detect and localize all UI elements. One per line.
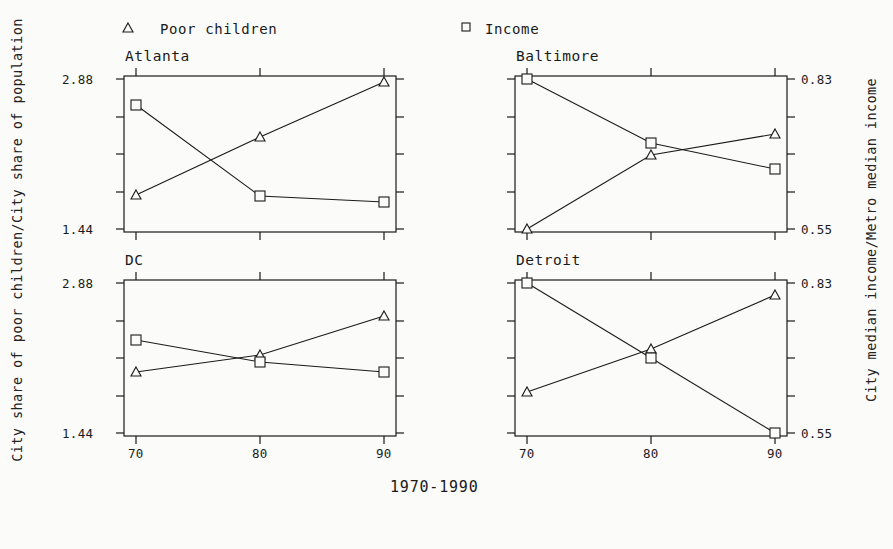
data-point-marker (522, 224, 532, 233)
y-tick-label-top-atlanta: 2.88 (62, 72, 93, 87)
square-marker-icon (462, 23, 470, 31)
triangle-marker-icon (123, 23, 133, 32)
data-point-marker (379, 197, 389, 207)
data-point-marker (379, 367, 389, 377)
data-point-marker (770, 164, 780, 174)
data-point-marker (770, 129, 780, 138)
x-tick-label-70-dc: 70 (128, 446, 144, 461)
x-tick-label-90-dc: 90 (376, 446, 392, 461)
panel-title-dc: DC (125, 252, 143, 268)
data-point-marker (131, 100, 141, 110)
legend-label-income: Income (485, 21, 539, 37)
data-point-marker (646, 138, 656, 148)
data-point-marker (255, 357, 265, 367)
figure-container: City share of poor children/City share o… (0, 0, 893, 549)
data-point-marker (379, 77, 389, 86)
x-tick-label-70-detroit: 70 (519, 446, 535, 461)
figure-svg (0, 0, 893, 549)
panel-dc (116, 272, 404, 444)
y-tick-label-bottom-dc: 1.44 (62, 426, 93, 441)
panel-title-atlanta: Atlanta (125, 48, 190, 64)
panel-detroit (507, 272, 795, 444)
data-point-marker (522, 278, 532, 288)
x-tick-label-80-dc: 80 (252, 446, 268, 461)
panel-atlanta (116, 68, 404, 240)
data-point-marker (379, 311, 389, 320)
data-point-marker (646, 353, 656, 363)
panel-title-detroit: Detroit (516, 252, 581, 268)
panel-title-baltimore: Baltimore (516, 48, 599, 64)
data-point-marker (131, 335, 141, 345)
data-point-marker (255, 191, 265, 201)
data-point-marker (646, 344, 656, 353)
y-tick-label-bottom-baltimore: 0.55 (801, 222, 832, 237)
x-tick-label-90-detroit: 90 (767, 446, 783, 461)
x-tick-label-80-detroit: 80 (643, 446, 659, 461)
x-axis-title: 1970-1990 (390, 478, 478, 496)
y-tick-label-bottom-detroit: 0.55 (801, 426, 832, 441)
y-tick-label-top-baltimore: 0.83 (801, 72, 832, 87)
legend-label-poor-children: Poor children (160, 21, 277, 37)
panel-baltimore (507, 68, 795, 240)
y-tick-label-bottom-atlanta: 1.44 (62, 222, 93, 237)
y-tick-label-top-dc: 2.88 (62, 276, 93, 291)
y-tick-label-top-detroit: 0.83 (801, 276, 832, 291)
data-point-marker (770, 428, 780, 438)
data-point-marker (522, 74, 532, 84)
series-line-income (136, 105, 384, 202)
data-point-marker (255, 132, 265, 141)
data-point-marker (131, 190, 141, 199)
data-point-marker (770, 290, 780, 299)
panel-frame (124, 76, 396, 232)
data-point-marker (522, 387, 532, 396)
